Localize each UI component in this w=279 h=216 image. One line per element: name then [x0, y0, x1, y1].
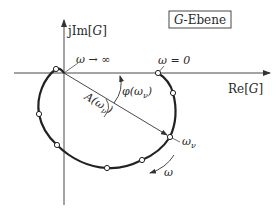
omega-zero-label: ω = 0: [158, 54, 190, 67]
nyquist-diagram: G-Ebene jIm[G] Re[G] ω → ∞ ω = 0 ων φ(ων…: [0, 0, 279, 216]
nyquist-curve: [38, 69, 175, 168]
curve-point: [53, 66, 58, 71]
point-omega-nu: [167, 134, 172, 139]
curve-point: [36, 111, 41, 116]
frequency-points: [36, 66, 175, 170]
curve-point: [139, 157, 144, 162]
phase-label: φ(ων): [122, 85, 152, 100]
curve-point: [170, 90, 175, 95]
omega-nu-leader: [172, 138, 180, 142]
plane-label: G-Ebene: [174, 13, 226, 27]
curve-point: [54, 142, 59, 147]
phase-arc: [114, 76, 121, 103]
amplitude-vector: [64, 73, 167, 135]
omega-nu-label: ων: [182, 135, 196, 150]
imag-axis-label: jIm[G]: [66, 24, 107, 38]
omega-infinity-label: ω → ∞: [76, 53, 110, 66]
direction-label: ω: [164, 166, 173, 179]
curve-point: [104, 165, 109, 170]
point-omega-zero: [155, 70, 160, 75]
real-axis-label: Re[G]: [228, 82, 263, 96]
